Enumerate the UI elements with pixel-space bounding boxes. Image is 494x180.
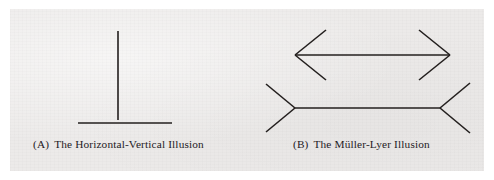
muller-lyer-inward-fins-figure	[266, 83, 470, 133]
illusion-line-art	[0, 0, 494, 180]
panel-a-caption: (A)The Horizontal-Vertical Illusion	[33, 138, 204, 150]
panel-a-label: (A)	[33, 138, 49, 150]
muller-lyer-outward-fins-figure	[295, 30, 450, 80]
fin-top-left	[266, 84, 295, 108]
fin-bottom-left	[295, 55, 326, 80]
fin-top-right	[440, 83, 470, 108]
fin-top-left	[295, 30, 326, 55]
panel-a-caption-text: The Horizontal-Vertical Illusion	[54, 138, 204, 150]
panel-b-caption: (B)The Müller-Lyer Illusion	[293, 138, 430, 150]
panel-a-diagram	[78, 31, 172, 123]
fin-bottom-right	[419, 55, 450, 80]
fin-top-right	[419, 30, 450, 55]
panel-b-caption-text: The Müller-Lyer Illusion	[314, 138, 430, 150]
illusion-figure: (A)The Horizontal-Vertical Illusion (B)T…	[0, 0, 494, 180]
fin-bottom-right	[440, 108, 470, 133]
fin-bottom-left	[266, 108, 295, 132]
panel-b-label: (B)	[293, 138, 309, 150]
